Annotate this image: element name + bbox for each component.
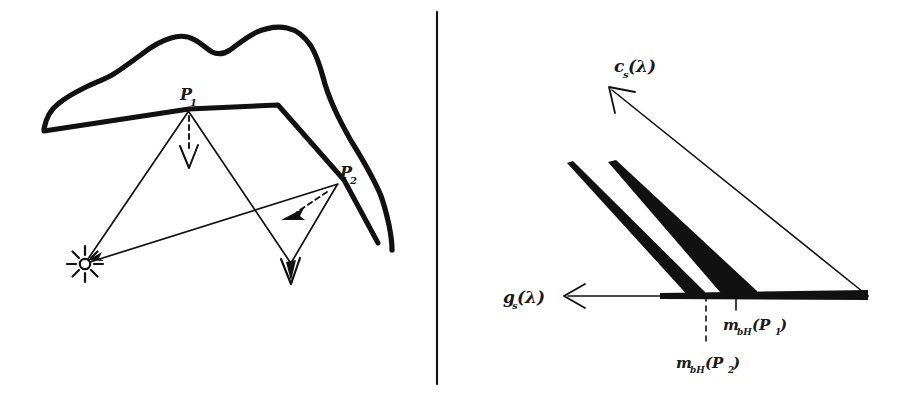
tick-label-p1-subscript: bH <box>737 327 752 337</box>
tick-label-p2-subscript: bH <box>690 365 705 375</box>
label-point-p1-subscript: 1 <box>190 97 197 108</box>
figure-canvas: P 1 P 2 c <box>0 0 902 396</box>
tick-label-p2-close: ) <box>732 354 740 372</box>
figure-root: P 1 P 2 c <box>0 0 902 396</box>
tick-label-p1-close: ) <box>779 316 787 334</box>
tick-label-p1-argument: (P <box>752 316 771 334</box>
axis-horizontal-label-argument: (λ) <box>517 287 545 307</box>
label-point-p2-subscript: 2 <box>349 175 357 186</box>
tick-label-p2-argument: (P <box>705 354 724 372</box>
axis-diagonal-label-argument: (λ) <box>628 56 656 76</box>
